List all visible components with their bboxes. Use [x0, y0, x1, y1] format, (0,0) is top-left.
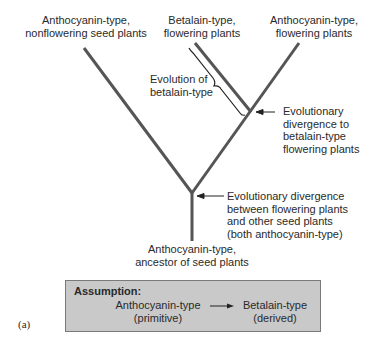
assumption-from-type: Anthocyanin-type	[102, 299, 214, 312]
tip-label-line: Anthocyanin-type,	[262, 14, 366, 27]
tip-label-anthocyanin-flowering: Anthocyanin-type, flowering plants	[262, 14, 366, 39]
root-label: Anthocyanin-type, ancestor of seed plant…	[112, 243, 272, 268]
panel-label: (a)	[18, 318, 30, 330]
tip-label-line: nonflowering seed plants	[16, 27, 156, 40]
assumption-to-state: (derived)	[232, 312, 318, 325]
root-label-line: Anthocyanin-type,	[112, 243, 272, 256]
tip-label-line: Anthocyanin-type,	[16, 14, 156, 27]
annotation-line: and other seed plants	[227, 215, 348, 228]
tip-label-line: flowering plants	[152, 27, 252, 40]
tip-label-line: Betalain-type,	[152, 14, 252, 27]
root-label-line: ancestor of seed plants	[112, 256, 272, 269]
bracket-label-line: betalain-type	[150, 86, 213, 99]
tip-label-line: flowering plants	[262, 27, 366, 40]
branch-nonflowering	[84, 48, 192, 193]
annotation-line: flowering plants	[283, 143, 359, 156]
tip-label-nonflowering: Anthocyanin-type, nonflowering seed plan…	[16, 14, 156, 39]
annotation-line: betalain-type	[283, 130, 359, 143]
assumption-box: Assumption: Anthocyanin-type (primitive)…	[65, 280, 321, 332]
assumption-title: Assumption:	[74, 285, 141, 297]
assumption-from-state: (primitive)	[102, 312, 214, 325]
assumption-from: Anthocyanin-type (primitive)	[102, 299, 214, 324]
annotation-line: (both anthocyanin-type)	[227, 228, 348, 241]
annotation-line: Evolutionary	[283, 105, 359, 118]
assumption-to-type: Betalain-type	[232, 299, 318, 312]
arrow-lower-divergence	[197, 194, 224, 199]
annotation-line: between flowering plants	[227, 203, 348, 216]
arrow-upper-divergence	[256, 110, 275, 115]
bracket-label: Evolution of betalain-type	[150, 73, 213, 98]
upper-divergence-label: Evolutionary divergence to betalain-type…	[283, 105, 359, 155]
bracket-label-line: Evolution of	[150, 73, 213, 86]
annotation-line: Evolutionary divergence	[227, 190, 348, 203]
annotation-line: divergence to	[283, 118, 359, 131]
tip-label-betalain: Betalain-type, flowering plants	[152, 14, 252, 39]
lower-divergence-label: Evolutionary divergence between flowerin…	[227, 190, 348, 240]
assumption-to: Betalain-type (derived)	[232, 299, 318, 324]
